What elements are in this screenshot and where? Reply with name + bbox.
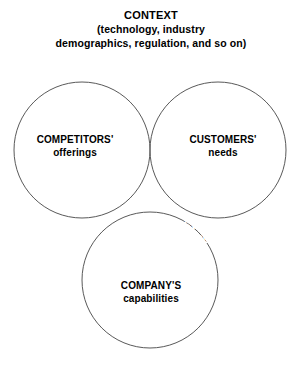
sweet-spot-fill xyxy=(82,212,218,348)
circle-customers xyxy=(150,82,286,218)
sweet-spot-region xyxy=(82,212,218,348)
circle-competitors xyxy=(14,82,150,218)
circle-company xyxy=(82,212,218,348)
venn-diagram-canvas xyxy=(0,0,302,381)
sweet-spot-venn-figure: CONTEXT (technology, industry demographi… xyxy=(0,0,302,381)
